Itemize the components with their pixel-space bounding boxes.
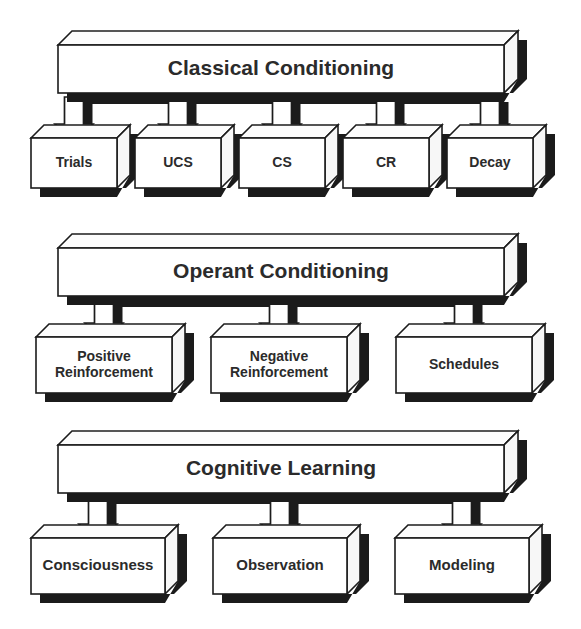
child-operant-conditioning-0-top-face [36,324,185,337]
child-classical-conditioning-4-top-face [447,125,546,138]
child-classical-conditioning-3[interactable]: CR [343,125,451,197]
child-label-cognitive-learning-0: Consciousness [43,556,154,573]
child-classical-conditioning-0[interactable]: Trials [31,125,139,197]
child-box-operant-conditioning-2[interactable]: Schedules [396,324,554,402]
child-label-cognitive-learning-2: Modeling [429,556,495,573]
header-operant-conditioning[interactable]: Operant Conditioning [58,234,527,305]
learning-theories-diagram: Classical ConditioningTrialsUCSCSCRDecay… [0,0,581,629]
header-classical-conditioning-top-face [58,31,518,45]
header-title-classical-conditioning: Classical Conditioning [168,56,394,79]
child-classical-conditioning-1[interactable]: UCS [135,125,243,197]
child-cognitive-learning-2[interactable]: Modeling [395,525,551,603]
child-box-cognitive-learning-2[interactable]: Modeling [395,525,551,603]
child-classical-conditioning-4[interactable]: Decay [447,125,555,197]
child-label-classical-conditioning-0: Trials [56,154,93,170]
child-classical-conditioning-2[interactable]: CS [239,125,347,197]
child-operant-conditioning-2-side-face [532,324,545,393]
child-cognitive-learning-1-top-face [213,525,360,538]
header-box-classical-conditioning[interactable]: Classical Conditioning [58,31,527,102]
child-cognitive-learning-0-top-face [31,525,178,538]
header-operant-conditioning-top-face [58,234,518,248]
child-operant-conditioning-1-side-face [347,324,360,393]
header-classical-conditioning[interactable]: Classical Conditioning [58,31,527,102]
child-classical-conditioning-1-top-face [135,125,234,138]
child-label-classical-conditioning-1: UCS [163,154,193,170]
child-box-classical-conditioning-4[interactable]: Decay [447,125,555,197]
child-box-operant-conditioning-1[interactable]: NegativeReinforcement [211,324,369,402]
child-operant-conditioning-2[interactable]: Schedules [396,324,554,402]
child-cognitive-learning-2-side-face [529,525,542,594]
child-classical-conditioning-3-top-face [343,125,442,138]
child-operant-conditioning-1-top-face [211,324,360,337]
section-cognitive-learning: Cognitive LearningConsciousnessObservati… [31,431,551,603]
section-operant-conditioning: Operant ConditioningPositiveReinforcemen… [36,234,554,402]
child-label-classical-conditioning-4: Decay [469,154,510,170]
child-cognitive-learning-0-side-face [165,525,178,594]
header-cognitive-learning-top-face [58,431,518,445]
child-label-classical-conditioning-2: CS [272,154,291,170]
child-box-cognitive-learning-0[interactable]: Consciousness [31,525,187,603]
child-label-cognitive-learning-1: Observation [236,556,324,573]
child-cognitive-learning-1-side-face [347,525,360,594]
child-operant-conditioning-2-top-face [396,324,545,337]
header-cognitive-learning[interactable]: Cognitive Learning [58,431,527,502]
child-box-classical-conditioning-2[interactable]: CS [239,125,347,197]
header-box-operant-conditioning[interactable]: Operant Conditioning [58,234,527,305]
child-operant-conditioning-1[interactable]: NegativeReinforcement [211,324,369,402]
child-classical-conditioning-2-top-face [239,125,338,138]
child-operant-conditioning-0-side-face [172,324,185,393]
header-title-operant-conditioning: Operant Conditioning [173,259,389,282]
child-box-operant-conditioning-0[interactable]: PositiveReinforcement [36,324,194,402]
child-cognitive-learning-2-top-face [395,525,542,538]
child-box-cognitive-learning-1[interactable]: Observation [213,525,369,603]
child-box-classical-conditioning-1[interactable]: UCS [135,125,243,197]
child-box-classical-conditioning-3[interactable]: CR [343,125,451,197]
child-label-classical-conditioning-3: CR [376,154,396,170]
header-title-cognitive-learning: Cognitive Learning [186,456,376,479]
child-classical-conditioning-0-top-face [31,125,130,138]
header-box-cognitive-learning[interactable]: Cognitive Learning [58,431,527,502]
child-cognitive-learning-1[interactable]: Observation [213,525,369,603]
child-cognitive-learning-0[interactable]: Consciousness [31,525,187,603]
diagram-canvas: Classical ConditioningTrialsUCSCSCRDecay… [0,0,581,629]
section-classical-conditioning: Classical ConditioningTrialsUCSCSCRDecay [31,31,555,197]
child-operant-conditioning-0[interactable]: PositiveReinforcement [36,324,194,402]
child-label-operant-conditioning-2: Schedules [429,356,499,372]
child-box-classical-conditioning-0[interactable]: Trials [31,125,139,197]
